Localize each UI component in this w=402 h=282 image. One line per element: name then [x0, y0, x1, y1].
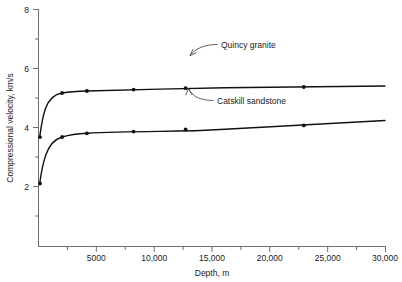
data-point — [132, 88, 136, 92]
data-point — [184, 128, 188, 132]
data-point — [38, 182, 42, 186]
x-tick-label-30000: 30,000 — [372, 253, 398, 263]
x-tick-label-5000: 5000 — [87, 253, 106, 263]
data-point — [85, 131, 89, 135]
data-point — [184, 86, 188, 90]
y-tick-label-4: 4 — [24, 123, 29, 133]
data-point — [85, 89, 89, 93]
x-axis-title: Depth, m — [195, 268, 230, 278]
series-markers-catskill-sandstone — [38, 124, 306, 186]
y-axis-title: Compressional velocity, km/s — [5, 73, 15, 182]
data-point — [38, 135, 42, 139]
data-point — [302, 85, 306, 89]
y-tick-label-8: 8 — [24, 5, 29, 15]
x-tick-label-20000: 20,000 — [257, 253, 283, 263]
x-axis-ticks — [67, 247, 385, 253]
annotation-catskill-sandstone: Catskill sandstone — [186, 89, 287, 106]
series-curve-catskill-sandstone — [40, 121, 385, 184]
y-axis-ticks — [33, 10, 39, 217]
data-point — [60, 135, 64, 139]
annotation-label-quincy-granite: Quincy granite — [221, 40, 276, 50]
data-point — [60, 91, 64, 95]
annotation-quincy-granite: Quincy granite — [190, 40, 276, 56]
annotation-label-catskill-sandstone: Catskill sandstone — [217, 96, 286, 106]
x-tick-label-10000: 10,000 — [141, 253, 167, 263]
x-tick-label-15000: 15,000 — [199, 253, 225, 263]
chart-figure: 8 6 4 2 5000 10,000 15,000 20,000 25,000… — [0, 0, 402, 282]
data-point — [302, 124, 306, 128]
data-point — [132, 130, 136, 134]
y-tick-label-6: 6 — [24, 64, 29, 74]
y-tick-label-2: 2 — [24, 182, 29, 192]
x-tick-label-25000: 25,000 — [315, 253, 341, 263]
